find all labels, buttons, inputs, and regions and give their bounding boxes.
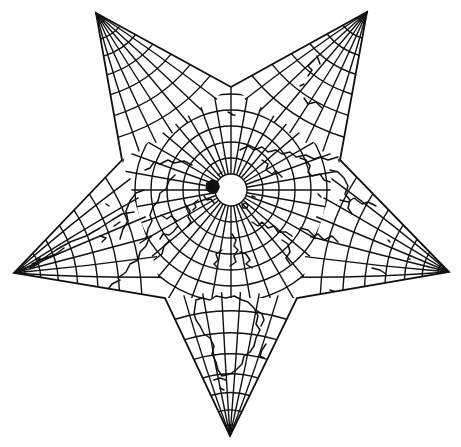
map-canvas (0, 0, 461, 447)
polar-graticule (31, 0, 431, 390)
coastlines (16, 56, 410, 390)
star-projection-map (0, 0, 461, 447)
